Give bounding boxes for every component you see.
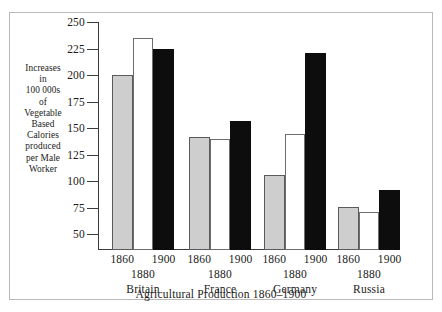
y-axis-label-line-4: Vegetable	[12, 108, 74, 119]
y-axis-label-line-7: produced	[12, 141, 74, 152]
y-tick-label-150: 150	[67, 122, 85, 134]
chart-figure: Increasesin100 000sofVegetableBasedCalor…	[0, 0, 442, 312]
chart-caption: Agricultural Production 1860–1900	[0, 288, 442, 300]
y-tick-150	[87, 128, 98, 129]
bar-germany-1900	[305, 53, 326, 250]
bar-germany-1880	[285, 134, 306, 250]
y-tick-label-125: 125	[67, 149, 85, 161]
y-axis-label-line-8: per Male	[12, 153, 74, 164]
y-axis-label-line-1: in	[12, 74, 74, 85]
x-label-germany-1860: 1860	[262, 253, 286, 265]
x-label-britain-1880: 1880	[131, 268, 155, 280]
plot-area: 2502252001751501251007550	[98, 22, 399, 250]
bar-group-russia	[338, 22, 400, 250]
y-axis-spine	[98, 22, 99, 250]
bar-group-france	[189, 22, 251, 250]
y-axis-label-line-3: of	[12, 97, 74, 108]
bar-britain-1860	[112, 75, 133, 250]
x-label-britain-1860: 1860	[110, 253, 134, 265]
bar-france-1860	[189, 137, 210, 250]
bar-russia-1860	[338, 207, 359, 250]
y-tick-250	[87, 22, 98, 23]
x-label-russia-1880: 1880	[357, 268, 381, 280]
y-axis-label-line-5: Based	[12, 119, 74, 130]
bar-france-1880	[210, 139, 231, 250]
x-label-france-1880: 1880	[208, 268, 232, 280]
y-tick-50	[87, 234, 98, 235]
bar-group-britain	[112, 22, 174, 250]
y-axis-label-line-9: Worker	[12, 164, 74, 175]
bar-russia-1880	[359, 212, 380, 250]
y-axis-label: Increasesin100 000sofVegetableBasedCalor…	[12, 63, 74, 175]
y-axis-label-line-6: Calories	[12, 130, 74, 141]
y-tick-label-250: 250	[67, 16, 85, 28]
x-label-germany-1880: 1880	[283, 268, 307, 280]
y-tick-label-175: 175	[67, 96, 85, 108]
x-label-france-1900: 1900	[229, 253, 253, 265]
bar-germany-1860	[264, 175, 285, 250]
x-label-russia-1860: 1860	[336, 253, 360, 265]
bar-britain-1880	[133, 38, 154, 250]
y-tick-175	[87, 102, 98, 103]
y-tick-225	[87, 49, 98, 50]
y-tick-label-100: 100	[67, 175, 85, 187]
y-tick-label-225: 225	[67, 43, 85, 55]
bar-france-1900	[230, 121, 251, 250]
y-tick-label-50: 50	[73, 228, 85, 240]
y-tick-200	[87, 75, 98, 76]
y-axis-label-line-0: Increases	[12, 63, 74, 74]
x-label-germany-1900: 1900	[304, 253, 328, 265]
y-tick-100	[87, 181, 98, 182]
bar-russia-1900	[379, 190, 400, 250]
y-tick-label-75: 75	[73, 202, 85, 214]
x-label-france-1860: 1860	[187, 253, 211, 265]
x-label-britain-1900: 1900	[152, 253, 176, 265]
bar-britain-1900	[153, 49, 174, 250]
y-axis-label-line-2: 100 000s	[12, 85, 74, 96]
x-label-russia-1900: 1900	[378, 253, 402, 265]
y-tick-125	[87, 155, 98, 156]
bar-group-germany	[264, 22, 326, 250]
y-tick-label-200: 200	[67, 69, 85, 81]
y-tick-75	[87, 208, 98, 209]
